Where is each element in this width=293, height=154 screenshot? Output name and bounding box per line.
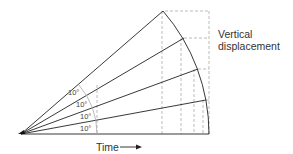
vertical-displacement-label: Vertical displacement bbox=[218, 28, 280, 52]
angle-label-2: 10° bbox=[80, 112, 91, 121]
time-axis-label: Time bbox=[96, 141, 119, 153]
angle-label-1: 10° bbox=[80, 124, 91, 133]
projection-lines bbox=[97, 11, 209, 134]
outer-arc bbox=[163, 11, 209, 134]
fan-diagram bbox=[0, 0, 293, 154]
time-arrow bbox=[120, 145, 142, 150]
label-line2: displacement bbox=[218, 40, 280, 52]
label-line1: Vertical bbox=[218, 28, 280, 40]
origin-marker bbox=[18, 130, 25, 134]
angle-label-3: 10° bbox=[76, 100, 87, 109]
angle-label-4: 10° bbox=[68, 88, 79, 97]
